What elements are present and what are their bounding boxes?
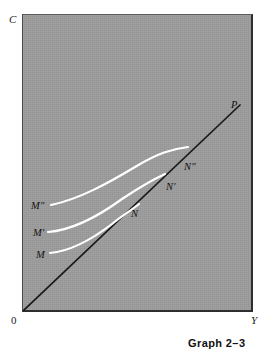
point-label-n-prime: N′ xyxy=(166,182,176,193)
curve-label-m: M xyxy=(36,250,45,261)
graph-drawing-layer xyxy=(0,0,275,357)
graph-figure: C Y 0 M M′ M″ N N′ N″ P Graph 2–3 xyxy=(0,0,275,357)
curve-label-m-double-prime: M″ xyxy=(31,201,45,212)
line-label-p: P xyxy=(231,100,238,111)
figure-caption: Graph 2–3 xyxy=(188,337,245,349)
x-axis-label: Y xyxy=(251,315,257,326)
origin-label: 0 xyxy=(11,315,17,326)
point-label-n-double-prime: N″ xyxy=(184,162,196,173)
curve-label-m-prime: M′ xyxy=(33,228,44,239)
point-label-n: N xyxy=(131,209,138,220)
curve-m-double-prime xyxy=(51,147,188,205)
y-axis-label: C xyxy=(9,14,16,25)
